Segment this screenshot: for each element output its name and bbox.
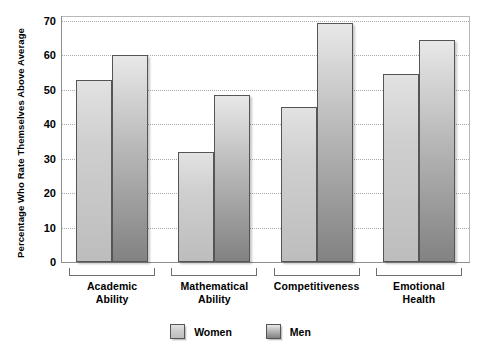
bar-men-3 bbox=[419, 40, 455, 262]
legend-item-men[interactable]: Men bbox=[266, 324, 311, 339]
legend-label-women: Women bbox=[194, 326, 232, 338]
bar-women-2 bbox=[281, 107, 317, 262]
bar-women-1 bbox=[178, 152, 214, 262]
y-tick-label: 30 bbox=[4, 153, 56, 164]
x-axis-group-label: MathematicalAbility bbox=[163, 280, 265, 306]
x-axis-group-label-line: Health bbox=[368, 293, 470, 306]
gridline bbox=[62, 21, 469, 22]
legend-swatch-men-icon bbox=[266, 324, 281, 339]
group-bracket bbox=[69, 268, 155, 276]
legend-item-women[interactable]: Women bbox=[170, 324, 232, 339]
bar-women-0 bbox=[76, 80, 112, 262]
y-tick-label: 70 bbox=[4, 16, 56, 27]
legend-label-men: Men bbox=[290, 326, 311, 338]
y-tick-label: 60 bbox=[4, 50, 56, 61]
legend: Women Men bbox=[0, 324, 481, 339]
x-axis-group-label-line: Emotional bbox=[368, 280, 470, 293]
y-axis-title: Percentage Who Rate Themselves Above Ave… bbox=[14, 8, 28, 278]
legend-swatch-women-icon bbox=[170, 324, 185, 339]
x-axis-group-label: Competitiveness bbox=[266, 280, 368, 293]
x-axis-group-label: EmotionalHealth bbox=[368, 280, 470, 306]
x-axis-group-label-line: Competitiveness bbox=[266, 280, 368, 293]
y-tick-label: 50 bbox=[4, 84, 56, 95]
y-tick-label: 20 bbox=[4, 188, 56, 199]
x-axis-group-label-line: Mathematical bbox=[163, 280, 265, 293]
x-axis-group-label-line: Ability bbox=[61, 293, 163, 306]
x-axis-group-label: AcademicAbility bbox=[61, 280, 163, 306]
bar-men-1 bbox=[214, 95, 250, 262]
y-tick-label: 0 bbox=[4, 257, 56, 268]
bar-men-2 bbox=[317, 23, 353, 262]
x-axis-group-label-line: Ability bbox=[163, 293, 265, 306]
y-tick-label: 10 bbox=[4, 222, 56, 233]
group-bracket bbox=[274, 268, 360, 276]
bar-men-0 bbox=[112, 55, 148, 262]
bar-women-3 bbox=[383, 74, 419, 262]
x-axis-line bbox=[61, 262, 470, 263]
y-axis-line bbox=[61, 16, 62, 263]
y-tick-label: 40 bbox=[4, 119, 56, 130]
group-bracket bbox=[376, 268, 462, 276]
x-axis-group-label-line: Academic bbox=[61, 280, 163, 293]
group-bracket bbox=[171, 268, 257, 276]
bar-chart: Percentage Who Rate Themselves Above Ave… bbox=[0, 0, 481, 351]
